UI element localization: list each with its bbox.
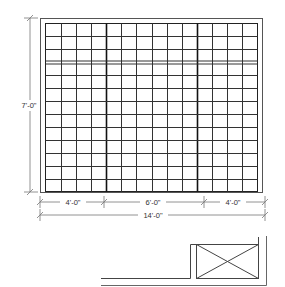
section-middle-label: 6'-0"	[146, 198, 161, 207]
overall-width-label: 14'-0"	[143, 211, 162, 220]
grid-lines	[46, 24, 258, 192]
section-dimensions: 4'-0" 6'-0" 4'-0"	[37, 196, 268, 208]
section-right-label: 4'-0"	[226, 198, 241, 207]
section-left-label: 4'-0"	[66, 198, 81, 207]
height-label: 7'-0"	[22, 101, 37, 110]
plan-view	[101, 236, 267, 286]
height-dimension: 7'-0"	[18, 15, 40, 195]
overall-dimension: 14'-0"	[37, 209, 268, 221]
elevation-drawing: 7'-0" 4'-0" 6'-0" 4'-0" 14'-0"	[0, 0, 285, 287]
